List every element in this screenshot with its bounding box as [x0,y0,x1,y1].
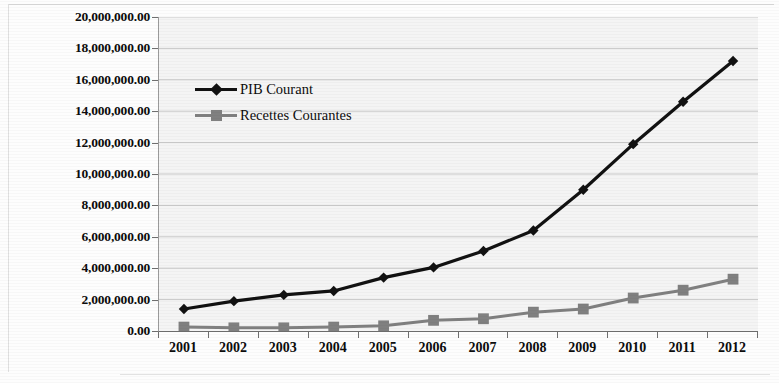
data-point-marker [378,320,389,331]
x-axis-tick-mark [308,332,309,338]
y-axis-tick-label: 8,000,000.00 [0,197,150,213]
x-axis-tick-mark [707,332,708,338]
chart-legend: PIB Courant Recettes Courantes [195,76,352,128]
square-marker-icon [211,110,222,121]
data-point-marker [328,322,339,331]
data-point-marker [278,322,289,331]
legend-label-recettes-courantes: Recettes Courantes [240,107,352,124]
y-axis-tick-mark [152,143,158,144]
y-axis-tick-mark [152,48,158,49]
x-axis-tick-mark [458,332,459,338]
data-point-marker [229,296,239,306]
x-axis-tick-mark [557,332,558,338]
x-axis-tick-mark [657,332,658,338]
legend-item-recettes-courantes: Recettes Courantes [195,102,352,128]
data-point-marker [678,285,689,296]
x-axis-tick-mark [507,332,508,338]
y-axis-tick-label: 2,000,000.00 [0,292,150,308]
y-axis-tick-mark [152,80,158,81]
data-point-marker [578,304,589,315]
data-point-marker [179,322,190,331]
legend-swatch-diamond-icon [195,82,237,96]
diamond-marker-icon [210,83,223,96]
y-axis-tick-label: 0.00 [0,323,150,339]
y-axis-tick-mark [152,205,158,206]
y-axis-tick-label: 12,000,000.00 [0,135,150,151]
legend-label-pib-courant: PIB Courant [240,81,313,98]
data-point-marker [378,272,388,282]
data-point-marker [428,315,439,326]
page-border-top [8,4,774,5]
y-axis-tick-mark [152,300,158,301]
data-point-marker [478,313,489,324]
y-axis-tick-mark [152,237,158,238]
x-axis-tick-label: 2012 [702,340,762,356]
chart-svg [159,17,758,331]
page-border-left [8,4,9,372]
x-axis-tick-mark [757,332,758,338]
y-axis-tick-label: 6,000,000.00 [0,229,150,245]
legend-item-pib-courant: PIB Courant [195,76,352,102]
data-point-marker [279,290,289,300]
y-axis-tick-mark [152,111,158,112]
y-axis-tick-mark [152,174,158,175]
x-axis-tick-mark [408,332,409,338]
data-point-marker [628,293,639,304]
chart-container: 0.002,000,000.004,000,000.006,000,000.00… [0,0,779,383]
y-axis-tick-mark [152,268,158,269]
x-axis-tick-mark [158,332,159,338]
y-axis-tick-mark [152,17,158,18]
plot-area [158,17,758,332]
legend-swatch-square-icon [195,108,237,122]
data-point-marker [428,262,438,272]
x-axis-tick-mark [208,332,209,338]
series-line-recettes-courantes [184,279,733,328]
data-point-marker [228,322,239,331]
y-axis-tick-label: 10,000,000.00 [0,166,150,182]
x-axis-tick-mark [358,332,359,338]
page-border-bottom [120,374,770,375]
data-point-marker [329,286,339,296]
y-axis-tick-label: 20,000,000.00 [0,9,150,25]
data-point-marker [728,274,739,285]
y-axis-tick-label: 16,000,000.00 [0,72,150,88]
x-axis-tick-mark [607,332,608,338]
y-axis-tick-label: 14,000,000.00 [0,103,150,119]
data-point-marker [528,307,539,318]
x-axis-tick-mark [258,332,259,338]
y-axis-tick-label: 4,000,000.00 [0,260,150,276]
y-axis-tick-label: 18,000,000.00 [0,40,150,56]
data-point-marker [179,304,189,314]
data-point-marker [478,246,488,256]
